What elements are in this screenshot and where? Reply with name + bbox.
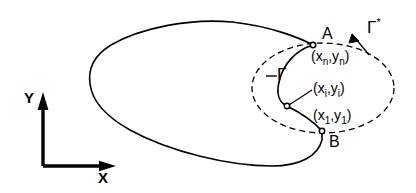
- gamma-star-asterisk: *: [376, 16, 380, 28]
- point-b-label: B: [329, 134, 340, 150]
- coord-i-close: ): [340, 80, 345, 96]
- gamma-star-label: Γ*: [367, 17, 381, 36]
- coord-n-close: ): [345, 48, 350, 64]
- coord-i-open: (x: [313, 80, 325, 96]
- x-axis-label: X: [98, 170, 108, 185]
- gamma-label: Γ: [277, 66, 286, 83]
- point-a-label: A: [322, 26, 333, 42]
- y-axis-label: Y: [24, 90, 34, 105]
- coord-i-leader-line: [289, 90, 312, 105]
- point-b-marker: [319, 128, 324, 133]
- coord-n-label: (xn,yn): [311, 49, 349, 67]
- contour-diagram-graphic: [0, 0, 416, 193]
- outer-contour-path: [90, 21, 322, 166]
- gamma-star-arrow-head: [349, 34, 359, 43]
- coord-i-comma-y: ,y: [327, 80, 338, 96]
- coord-1-label: (x1,y1): [313, 108, 351, 126]
- coord-1-open: (x: [313, 107, 325, 123]
- coord-1-comma-y: ,y: [330, 107, 341, 123]
- y-axis-arrowhead: [38, 92, 49, 110]
- diagram-canvas: A B (xn,yn) (xi,yi) (x1,y1) Γ Γ* Y X: [0, 0, 416, 193]
- gamma-star-glyph: Γ: [367, 18, 376, 37]
- coord-i-label: (xi,yi): [313, 81, 345, 99]
- coord-1-close: ): [347, 107, 352, 123]
- coord-n-comma-y: ,y: [328, 48, 339, 64]
- point-i-marker: [284, 103, 289, 108]
- coord-n-open: (x: [311, 48, 323, 64]
- point-a-marker: [310, 42, 315, 47]
